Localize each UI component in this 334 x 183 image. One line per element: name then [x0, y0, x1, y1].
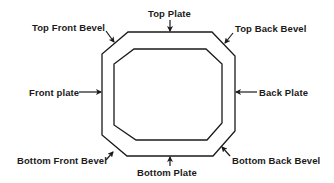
bottom-plate-label: Bottom Plate [137, 168, 197, 178]
top-front-bevel-label: Top Front Bevel [32, 23, 105, 33]
front-plate-label: Front plate [29, 88, 79, 98]
inner-octagon [114, 49, 222, 140]
outer-octagon [102, 32, 235, 156]
top-front-bevel-arrow [106, 31, 114, 42]
bottom-back-bevel-label: Bottom Back Bevel [232, 156, 320, 166]
bottom-front-bevel-arrow [106, 152, 113, 160]
top-plate-label: Top Plate [148, 9, 191, 19]
top-back-bevel-label: Top Back Bevel [235, 24, 306, 34]
bevel-frame-diagram: Top Plate Top Front Bevel Top Back Bevel… [0, 0, 334, 183]
bottom-back-bevel-arrow [222, 147, 230, 156]
back-plate-label: Back Plate [259, 88, 308, 98]
top-back-bevel-arrow [225, 33, 233, 43]
bottom-front-bevel-label: Bottom Front Bevel [17, 156, 107, 166]
